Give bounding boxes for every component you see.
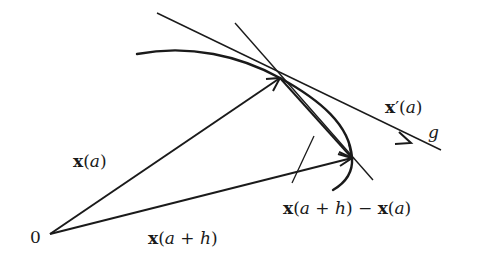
- var-a: a: [165, 228, 175, 248]
- var-a: a: [394, 198, 404, 218]
- var-h: h: [200, 228, 211, 248]
- var-h: h: [335, 198, 346, 218]
- label-derivative: x′(a): [385, 99, 422, 116]
- paren-close: ): [100, 151, 107, 171]
- bold-x: x: [378, 198, 388, 218]
- label-x-a-plus-h: x(a + h): [148, 230, 218, 247]
- paren-open: (: [83, 151, 90, 171]
- label-pointer: [292, 136, 314, 183]
- minus: −: [353, 198, 378, 218]
- label-g: g: [428, 124, 439, 141]
- bold-x: x: [148, 228, 158, 248]
- label-x-a: x(a): [73, 153, 107, 170]
- paren-close: ): [405, 198, 412, 218]
- paren-close: ): [211, 228, 218, 248]
- plus: +: [175, 228, 200, 248]
- plus: +: [310, 198, 335, 218]
- var-a: a: [406, 97, 416, 117]
- tangent-line-g: [157, 13, 441, 150]
- var-a: a: [300, 198, 310, 218]
- diagram-canvas: [0, 0, 478, 265]
- bold-x: x: [385, 97, 395, 117]
- label-difference: x(a + h) − x(a): [283, 200, 411, 217]
- paren-open: (: [158, 228, 165, 248]
- paren-close: ): [416, 97, 423, 117]
- paren-open: (: [399, 97, 406, 117]
- paren-open: (: [293, 198, 300, 218]
- bold-x: x: [73, 151, 83, 171]
- var-a: a: [90, 151, 100, 171]
- origin-text: 0: [30, 227, 41, 247]
- arrowhead-icon: [266, 78, 280, 91]
- bold-x: x: [283, 198, 293, 218]
- paren-close: ): [346, 198, 353, 218]
- origin-label: 0: [30, 229, 41, 246]
- tangent-g-text: g: [428, 122, 439, 142]
